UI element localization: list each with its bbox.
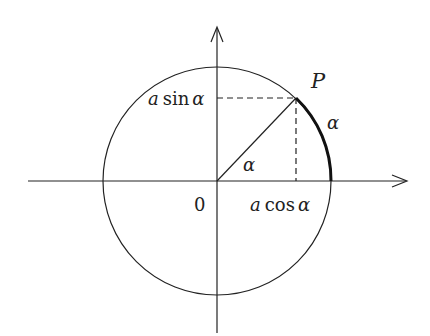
- arc-alpha: [296, 98, 331, 181]
- sin-label-a: a: [148, 88, 159, 109]
- arc-alpha-label: α: [327, 112, 339, 133]
- sin-label-var: α: [192, 88, 204, 109]
- origin-label: 0: [194, 194, 205, 215]
- point-p-label: P: [310, 69, 326, 93]
- sin-label: asinα: [148, 88, 204, 109]
- cos-label-var: α: [298, 194, 310, 215]
- radius-line: [217, 98, 296, 181]
- angle-alpha-label: α: [243, 154, 255, 175]
- unit-circle-diagram: P asinα acosα 0 α α: [0, 0, 430, 336]
- cos-label: acosα: [250, 194, 310, 215]
- cos-label-a: a: [250, 194, 261, 215]
- diagram-canvas: P asinα acosα 0 α α: [0, 0, 430, 336]
- cos-label-fn: cos: [265, 194, 295, 215]
- sin-label-fn: sin: [163, 88, 190, 109]
